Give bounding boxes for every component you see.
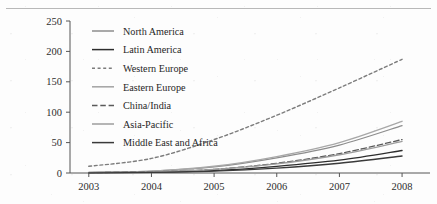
line-chart: 050100150200250 200320042005200620072008… bbox=[0, 9, 437, 204]
y-tick-label: 50 bbox=[52, 137, 63, 148]
y-tick-label: 200 bbox=[46, 46, 62, 57]
x-axis: 200320042005200620072008 bbox=[70, 173, 430, 192]
legend-label-asia-pacific: Asia-Pacific bbox=[123, 119, 174, 130]
y-tick-label: 100 bbox=[46, 107, 62, 118]
x-tick-label: 2007 bbox=[329, 181, 350, 192]
x-tick-label: 2003 bbox=[78, 181, 99, 192]
legend-label-north-america: North America bbox=[123, 26, 184, 37]
y-tick-label: 250 bbox=[46, 16, 62, 27]
legend-label-china-india: China/India bbox=[123, 100, 172, 111]
x-tick-label: 2008 bbox=[392, 181, 413, 192]
series-lines bbox=[89, 59, 402, 173]
y-tick-label: 150 bbox=[46, 76, 62, 87]
series-line-north-america bbox=[89, 126, 402, 173]
x-tick-label: 2005 bbox=[204, 181, 225, 192]
y-tick-label: 0 bbox=[57, 168, 62, 179]
legend-label-middle-east-and-africa: Middle East and Africa bbox=[123, 137, 218, 148]
y-axis: 050100150200250 bbox=[46, 16, 70, 179]
legend-label-eastern-europe: Eastern Europe bbox=[123, 82, 186, 93]
legend-label-latin-america: Latin America bbox=[123, 44, 182, 55]
chart-legend: North AmericaLatin AmericaWestern Europe… bbox=[92, 26, 218, 149]
x-tick-label: 2006 bbox=[266, 181, 287, 192]
clipped-caption-text bbox=[0, 0, 437, 3]
chart-canvas: 050100150200250 200320042005200620072008… bbox=[0, 9, 437, 204]
figure-page: 050100150200250 200320042005200620072008… bbox=[0, 0, 437, 204]
legend-label-western-europe: Western Europe bbox=[123, 63, 189, 74]
x-tick-label: 2004 bbox=[141, 181, 163, 192]
